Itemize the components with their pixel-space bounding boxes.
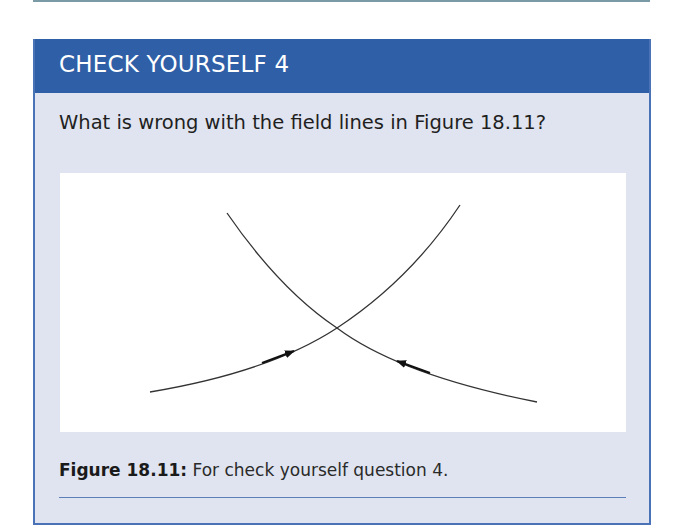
caption-label: Figure 18.11: bbox=[59, 460, 187, 480]
check-yourself-box: CHECK YOURSELF 4 What is wrong with the … bbox=[33, 39, 651, 525]
caption-divider bbox=[59, 497, 626, 498]
figure-caption: Figure 18.11: For check yourself questio… bbox=[59, 460, 448, 480]
falling-field-line bbox=[227, 213, 537, 402]
rising-field-line bbox=[150, 205, 460, 392]
arrow-icon bbox=[262, 351, 294, 363]
caption-text: For check yourself question 4. bbox=[187, 460, 448, 480]
question-text: What is wrong with the field lines in Fi… bbox=[59, 111, 546, 134]
box-header: CHECK YOURSELF 4 bbox=[35, 39, 649, 93]
top-divider bbox=[33, 0, 650, 2]
field-lines-diagram bbox=[60, 173, 626, 432]
figure-18-11 bbox=[60, 173, 626, 432]
arrow-icon bbox=[397, 361, 430, 373]
box-title: CHECK YOURSELF 4 bbox=[59, 51, 289, 77]
